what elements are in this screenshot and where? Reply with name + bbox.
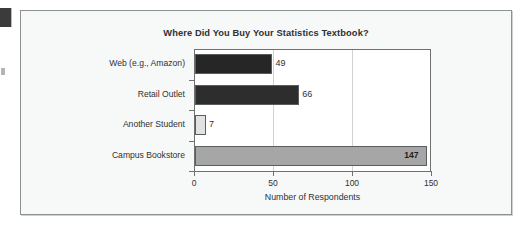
- category-label: Campus Bookstore: [112, 150, 185, 160]
- y-tick: [189, 171, 194, 172]
- x-tick-label: 150: [424, 178, 438, 188]
- x-tick-label: 0: [192, 178, 197, 188]
- x-tick-label: 100: [345, 178, 359, 188]
- bar-value-label: 7: [209, 119, 214, 129]
- x-tick: [194, 171, 195, 176]
- chart-title: Where Did You Buy Your Statistics Textbo…: [21, 28, 511, 38]
- x-axis-label: Number of Respondents: [194, 192, 431, 202]
- bar: [195, 85, 299, 105]
- x-axis-line: [189, 171, 432, 172]
- page-margin-mark-top: [0, 8, 12, 27]
- chart-figure: Where Did You Buy Your Statistics Textbo…: [20, 10, 512, 215]
- y-tick: [189, 110, 194, 111]
- y-tick: [189, 141, 194, 142]
- bar: [195, 146, 427, 166]
- category-label: Another Student: [123, 119, 185, 129]
- bar: [195, 115, 206, 135]
- x-tick: [352, 171, 353, 176]
- page-margin-mark-mid: [1, 68, 5, 75]
- y-tick: [189, 80, 194, 81]
- bar-value-label: 147: [404, 150, 418, 160]
- x-tick-label: 50: [268, 178, 277, 188]
- bar-value-label: 66: [302, 89, 312, 99]
- category-label: Web (e.g., Amazon): [109, 58, 185, 68]
- x-tick: [273, 171, 274, 176]
- bar: [195, 54, 272, 74]
- category-label: Retail Outlet: [138, 89, 185, 99]
- x-tick: [431, 171, 432, 176]
- bar-value-label: 49: [275, 58, 285, 68]
